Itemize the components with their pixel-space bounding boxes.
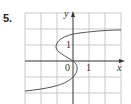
y-axis-arrow-icon <box>71 11 75 17</box>
axes <box>25 14 122 104</box>
x-axis-label: x <box>116 62 122 73</box>
graph: y x 0 1 1 <box>0 0 131 104</box>
x-tick-label: 1 <box>86 62 91 73</box>
y-tick-label: 1 <box>66 39 71 50</box>
origin-label: 0 <box>65 62 70 73</box>
y-axis-label: y <box>63 8 69 19</box>
